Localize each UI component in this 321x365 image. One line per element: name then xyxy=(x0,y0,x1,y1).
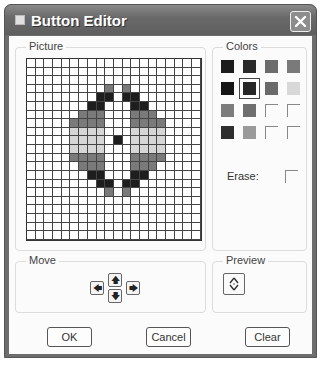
title-bar[interactable]: Button Editor xyxy=(5,5,316,35)
pixel-cell[interactable] xyxy=(97,136,106,145)
pixel-cell[interactable] xyxy=(149,111,158,120)
pixel-cell[interactable] xyxy=(79,205,88,214)
pixel-cell[interactable] xyxy=(114,93,123,102)
pixel-cell[interactable] xyxy=(166,136,175,145)
pixel-cell[interactable] xyxy=(123,68,132,77)
pixel-cell[interactable] xyxy=(27,85,36,94)
pixel-cell[interactable] xyxy=(70,171,79,180)
color-swatch-4[interactable] xyxy=(287,60,300,73)
pixel-cell[interactable] xyxy=(79,171,88,180)
pixel-cell[interactable] xyxy=(192,111,201,120)
pixel-cell[interactable] xyxy=(140,68,149,77)
pixel-cell[interactable] xyxy=(192,145,201,154)
pixel-cell[interactable] xyxy=(27,231,36,240)
pixel-cell[interactable] xyxy=(140,59,149,68)
pixel-cell[interactable] xyxy=(114,223,123,232)
pixel-cell[interactable] xyxy=(70,59,79,68)
pixel-cell[interactable] xyxy=(131,214,140,223)
color-swatch-5[interactable] xyxy=(221,82,234,95)
pixel-cell[interactable] xyxy=(149,128,158,137)
pixel-cell[interactable] xyxy=(53,128,62,137)
pixel-cell[interactable] xyxy=(97,231,106,240)
pixel-cell[interactable] xyxy=(157,231,166,240)
pixel-cell[interactable] xyxy=(36,119,45,128)
pixel-cell[interactable] xyxy=(123,85,132,94)
pixel-cell[interactable] xyxy=(105,197,114,206)
pixel-cell[interactable] xyxy=(192,180,201,189)
pixel-cell[interactable] xyxy=(192,231,201,240)
pixel-cell[interactable] xyxy=(79,68,88,77)
pixel-cell[interactable] xyxy=(44,154,53,163)
pixel-cell[interactable] xyxy=(114,59,123,68)
pixel-cell[interactable] xyxy=(27,76,36,85)
pixel-cell[interactable] xyxy=(183,128,192,137)
pixel-cell[interactable] xyxy=(175,205,184,214)
pixel-cell[interactable] xyxy=(166,223,175,232)
pixel-cell[interactable] xyxy=(44,188,53,197)
pixel-cell[interactable] xyxy=(183,136,192,145)
pixel-cell[interactable] xyxy=(140,111,149,120)
pixel-cell[interactable] xyxy=(44,162,53,171)
pixel-cell[interactable] xyxy=(166,145,175,154)
pixel-cell[interactable] xyxy=(44,85,53,94)
pixel-cell[interactable] xyxy=(123,197,132,206)
pixel-cell[interactable] xyxy=(44,214,53,223)
pixel-cell[interactable] xyxy=(70,136,79,145)
pixel-cell[interactable] xyxy=(27,119,36,128)
pixel-cell[interactable] xyxy=(192,59,201,68)
pixel-cell[interactable] xyxy=(131,59,140,68)
pixel-cell[interactable] xyxy=(192,214,201,223)
pixel-cell[interactable] xyxy=(105,102,114,111)
pixel-cell[interactable] xyxy=(175,111,184,120)
pixel-cell[interactable] xyxy=(149,180,158,189)
pixel-cell[interactable] xyxy=(149,197,158,206)
pixel-cell[interactable] xyxy=(140,171,149,180)
pixel-cell[interactable] xyxy=(62,111,71,120)
pixel-cell[interactable] xyxy=(62,93,71,102)
pixel-cell[interactable] xyxy=(70,154,79,163)
pixel-cell[interactable] xyxy=(183,145,192,154)
pixel-cell[interactable] xyxy=(88,197,97,206)
pixel-cell[interactable] xyxy=(114,188,123,197)
pixel-cell[interactable] xyxy=(183,223,192,232)
pixel-cell[interactable] xyxy=(70,102,79,111)
pixel-cell[interactable] xyxy=(149,59,158,68)
pixel-cell[interactable] xyxy=(70,68,79,77)
pixel-cell[interactable] xyxy=(175,154,184,163)
pixel-cell[interactable] xyxy=(79,119,88,128)
pixel-cell[interactable] xyxy=(175,162,184,171)
pixel-cell[interactable] xyxy=(62,59,71,68)
pixel-cell[interactable] xyxy=(114,162,123,171)
pixel-cell[interactable] xyxy=(183,59,192,68)
pixel-cell[interactable] xyxy=(140,128,149,137)
pixel-cell[interactable] xyxy=(183,205,192,214)
pixel-cell[interactable] xyxy=(140,188,149,197)
pixel-cell[interactable] xyxy=(36,128,45,137)
pixel-cell[interactable] xyxy=(105,162,114,171)
pixel-cell[interactable] xyxy=(70,119,79,128)
pixel-cell[interactable] xyxy=(44,102,53,111)
pixel-cell[interactable] xyxy=(53,205,62,214)
pixel-cell[interactable] xyxy=(157,180,166,189)
pixel-cell[interactable] xyxy=(183,85,192,94)
pixel-cell[interactable] xyxy=(70,76,79,85)
pixel-cell[interactable] xyxy=(183,154,192,163)
pixel-cell[interactable] xyxy=(157,59,166,68)
pixel-cell[interactable] xyxy=(97,102,106,111)
pixel-cell[interactable] xyxy=(123,171,132,180)
pixel-cell[interactable] xyxy=(166,180,175,189)
pixel-cell[interactable] xyxy=(62,231,71,240)
pixel-cell[interactable] xyxy=(123,214,132,223)
pixel-cell[interactable] xyxy=(131,145,140,154)
pixel-cell[interactable] xyxy=(88,119,97,128)
pixel-cell[interactable] xyxy=(44,76,53,85)
pixel-cell[interactable] xyxy=(131,171,140,180)
pixel-cell[interactable] xyxy=(27,136,36,145)
pixel-cell[interactable] xyxy=(114,197,123,206)
move-down-button[interactable]: 🡇 xyxy=(108,289,122,303)
pixel-cell[interactable] xyxy=(53,85,62,94)
pixel-cell[interactable] xyxy=(114,128,123,137)
pixel-canvas[interactable] xyxy=(26,58,202,241)
pixel-cell[interactable] xyxy=(123,180,132,189)
pixel-cell[interactable] xyxy=(53,162,62,171)
